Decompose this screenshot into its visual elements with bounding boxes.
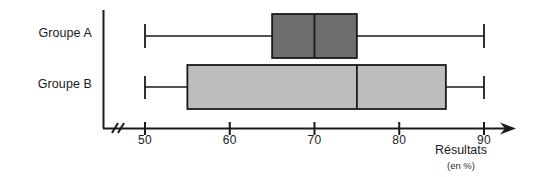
box-b (187, 65, 445, 109)
boxplot-groupe-a (145, 14, 484, 58)
category-label-groupe-a: Groupe A (0, 26, 92, 40)
boxplot-chart: Groupe A Groupe B 50 60 70 80 90 Résulta… (0, 0, 537, 177)
x-tick-label-50: 50 (125, 133, 165, 147)
boxplot-groupe-b (145, 65, 484, 109)
category-label-groupe-b: Groupe B (0, 77, 92, 91)
x-tick-label-60: 60 (210, 133, 250, 147)
x-axis-units: (en %) (396, 160, 526, 171)
x-axis-title: Résultats (396, 143, 526, 157)
x-tick-label-70: 70 (295, 133, 335, 147)
